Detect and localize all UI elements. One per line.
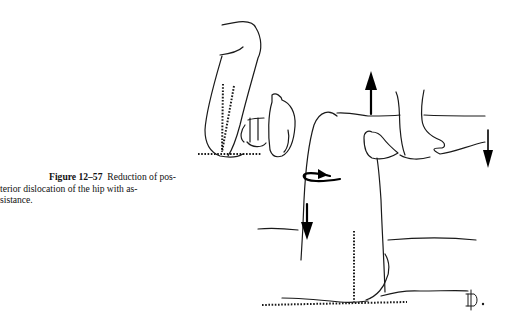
inset-flexed-leg [205, 22, 295, 157]
arrow-up-icon [365, 71, 377, 114]
main-baseline [262, 302, 407, 305]
inset-reference-line-1 [222, 84, 223, 152]
rotation-arrow-icon [304, 169, 340, 181]
monogram-signature [466, 290, 484, 310]
arrow-down-right-icon [483, 130, 493, 168]
inset-reference-line-2 [222, 86, 234, 152]
main-leg-and-hands [258, 90, 485, 302]
hip-reduction-illustration [0, 0, 505, 317]
